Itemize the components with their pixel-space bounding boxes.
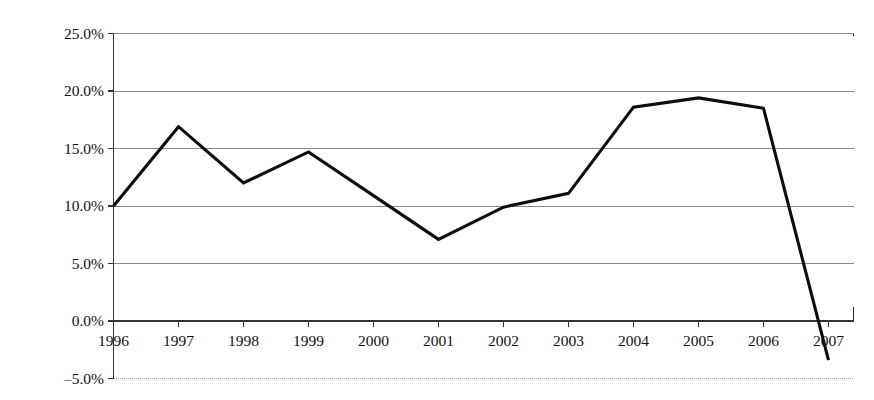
line-chart: Total Return 25.0%20.0%15.0%10.0%5.0%0.0… [0, 0, 874, 400]
plot-area [0, 0, 874, 400]
